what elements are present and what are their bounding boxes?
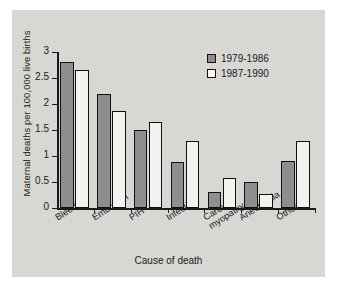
chart-figure: Maternal deaths per 100,000 live births … <box>0 0 337 287</box>
y-tick: 0 <box>52 208 57 209</box>
y-tick-label: 3 <box>43 45 49 56</box>
y-tick-label: 2.5 <box>35 71 49 82</box>
y-axis-title: Maternal deaths per 100,000 live births <box>21 14 32 214</box>
y-tick-label: 1 <box>43 149 49 160</box>
bar <box>171 162 185 208</box>
bar <box>244 182 258 208</box>
bar <box>296 141 310 208</box>
y-tick-label: 1.5 <box>35 123 49 134</box>
bar <box>60 62 74 208</box>
bar <box>97 94 111 208</box>
y-tick-label: 0.5 <box>35 175 49 186</box>
legend-swatch-icon <box>207 54 216 63</box>
legend-label: 1987-1990 <box>221 68 269 79</box>
bar <box>208 192 222 208</box>
plot-area: 00.511.522.53 <box>57 52 315 208</box>
bar <box>134 130 148 208</box>
bar-group <box>57 52 94 208</box>
legend-swatch-icon <box>207 69 216 78</box>
legend-item: 1979-1986 <box>207 52 269 65</box>
x-tick <box>315 208 316 213</box>
legend-label: 1979-1986 <box>221 53 269 64</box>
bar-group <box>278 52 315 208</box>
bar-group <box>168 52 205 208</box>
bar <box>186 141 200 208</box>
bar <box>281 161 295 208</box>
legend-item: 1987-1990 <box>207 67 269 80</box>
bar <box>149 122 163 208</box>
bar <box>223 178 237 208</box>
chart-legend: 1979-19861987-1990 <box>207 52 269 82</box>
bar-group <box>131 52 168 208</box>
bar <box>75 70 89 208</box>
bar-group <box>94 52 131 208</box>
bar <box>112 111 126 208</box>
y-tick-label: 0 <box>43 201 49 212</box>
bar <box>259 194 273 208</box>
y-tick-label: 2 <box>43 97 49 108</box>
x-axis-title: Cause of death <box>0 255 337 266</box>
